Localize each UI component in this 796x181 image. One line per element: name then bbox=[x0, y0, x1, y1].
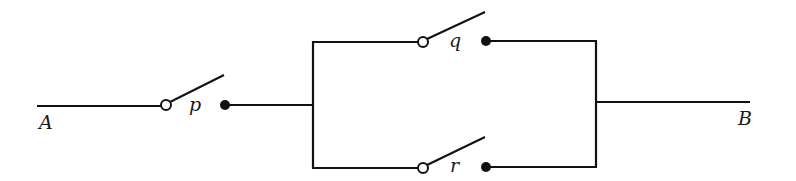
circuit-diagram: A B p q r bbox=[0, 0, 796, 181]
switch-p-label: p bbox=[189, 93, 201, 115]
switch-r-label: r bbox=[450, 154, 461, 176]
switch-p-pivot bbox=[161, 100, 171, 110]
terminal-b-label: B bbox=[737, 107, 752, 129]
switch-r-pivot bbox=[418, 163, 428, 173]
terminal-a-label: A bbox=[37, 111, 53, 133]
switch-q-label: q bbox=[449, 29, 461, 51]
switch-q-pivot bbox=[418, 37, 428, 47]
